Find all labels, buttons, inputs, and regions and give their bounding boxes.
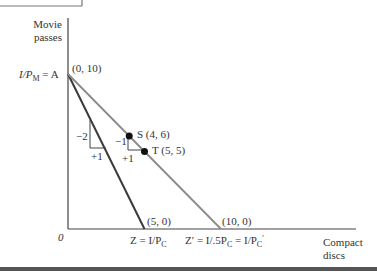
- point-t-label: T (5, 5): [152, 144, 185, 157]
- z-prime-point-coords: (10, 0): [222, 215, 252, 228]
- y-axis-label-line1: Movie: [33, 18, 62, 30]
- z-prime-label: Z′ = I/.5PC = I/PC′: [185, 234, 264, 249]
- x-axis-label-line2: discs: [323, 249, 345, 261]
- z-prime-label-prime: ′: [262, 234, 264, 243]
- point-a-coords: (0, 10): [72, 62, 102, 75]
- y-intercept-i: I/P: [18, 68, 33, 80]
- point-s-label: S (4, 6): [137, 128, 170, 141]
- z-label-main: Z = I/P: [130, 234, 161, 246]
- y-intercept-suffix: = A: [40, 68, 59, 80]
- z-point-coords: (5, 0): [147, 215, 171, 228]
- y-intercept-sub: M: [32, 74, 39, 83]
- slope-run-original: +1: [91, 150, 103, 162]
- x-axis-label-line1: Compact: [323, 236, 363, 248]
- z-prime-label-main: Z′ = I/.5P: [185, 234, 227, 246]
- origin-label: 0: [58, 231, 64, 243]
- y-intercept-label: I/PM = A: [18, 68, 59, 83]
- slope-rise-original: −2: [76, 130, 88, 142]
- z-label-sub: C: [161, 240, 166, 249]
- y-axis-label-line2: passes: [34, 31, 62, 43]
- slope-rise-new: −1: [115, 135, 127, 147]
- z-label: Z = I/PC: [130, 234, 167, 249]
- slope-run-new: +1: [122, 152, 134, 164]
- z-prime-label-mid: = I/P: [232, 234, 257, 246]
- bottom-rule: [0, 267, 377, 271]
- point-s: [126, 133, 133, 140]
- budget-line-diagram: Movie passes Compact discs 0 −2 +1 −1 +1…: [0, 0, 377, 275]
- point-t: [141, 148, 148, 155]
